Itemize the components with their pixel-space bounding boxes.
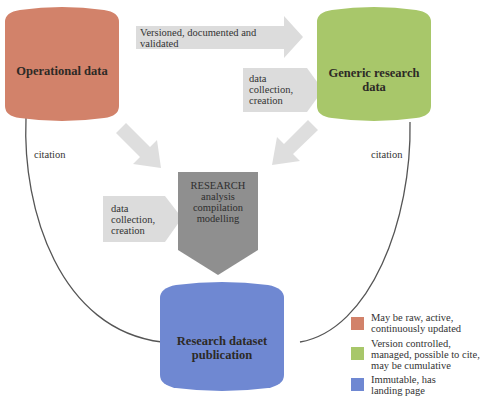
data-collection-right-line: collection, [249, 84, 293, 95]
data-collection-right-line: creation [249, 95, 293, 106]
citation-label-left: citation [34, 149, 66, 160]
data-collection-right-label: data collection, creation [249, 73, 293, 106]
legend-line: may be cumulative [371, 360, 480, 371]
legend-text: Version controlled, managed, possible to… [371, 338, 480, 371]
versioned-label-line1: Versioned, documented and [140, 27, 256, 38]
data-collection-right-line: data [249, 73, 293, 84]
legend-item-operational: May be raw, active, continuously updated [351, 312, 461, 334]
legend-line: Immutable, has [371, 374, 436, 385]
arrow-generic-to-research [272, 120, 318, 165]
legend-line: Version controlled, [371, 338, 480, 349]
legend-item-publication: Immutable, has landing page [351, 374, 436, 396]
generic-research-data-cylinder[interactable] [317, 7, 431, 121]
legend-swatch-green [351, 347, 364, 360]
legend-line: May be raw, active, [371, 312, 461, 323]
citation-label-right: citation [371, 149, 403, 160]
versioned-label-line2: validated [140, 38, 256, 49]
legend-line: managed, possible to cite, [371, 349, 480, 360]
legend-text: May be raw, active, continuously updated [371, 312, 461, 334]
versioned-arrow-label: Versioned, documented and validated [140, 27, 256, 49]
operational-data-label: Operational data [5, 64, 119, 78]
legend-swatch-red [351, 317, 364, 330]
legend-item-generic: Version controlled, managed, possible to… [351, 338, 480, 371]
legend-swatch-blue [351, 378, 364, 391]
research-line: modelling [178, 213, 258, 224]
research-box-text: RESEARCH analysis compilation modelling [178, 180, 258, 224]
data-collection-left-line: collection, [111, 214, 155, 225]
data-collection-left-line: creation [111, 225, 155, 236]
generic-research-data-label: Generic research data [322, 66, 426, 94]
legend-text: Immutable, has landing page [371, 374, 436, 396]
research-dataset-publication-label: Research dataset publication [165, 334, 279, 362]
legend-line: landing page [371, 385, 436, 396]
arrow-operational-to-research [116, 123, 161, 168]
research-line: compilation [178, 202, 258, 213]
data-collection-left-label: data collection, creation [111, 203, 155, 236]
data-collection-left-line: data [111, 203, 155, 214]
research-line: analysis [178, 191, 258, 202]
research-title: RESEARCH [178, 180, 258, 191]
legend-line: continuously updated [371, 323, 461, 334]
